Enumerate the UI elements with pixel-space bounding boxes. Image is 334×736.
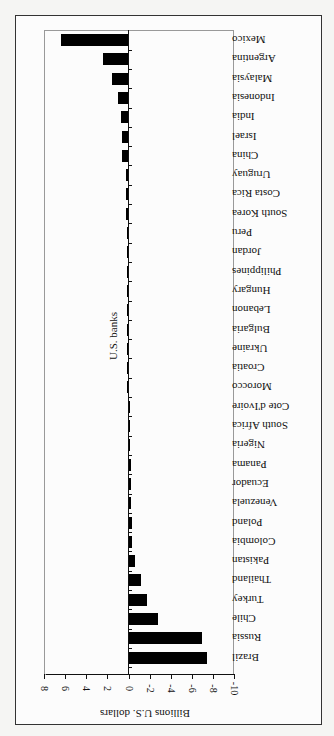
- x-tick-label: 8: [39, 679, 50, 699]
- zero-axis-line: [128, 30, 129, 675]
- category-label: Ecuador: [232, 477, 322, 491]
- x-axis-line: [46, 674, 234, 675]
- category-label: Malaysia: [232, 72, 322, 86]
- x-tick-label: -6: [186, 679, 197, 699]
- category-label: Jordan: [232, 245, 322, 259]
- category-label: Hungary: [232, 284, 322, 298]
- category-label: Poland: [232, 516, 322, 530]
- bar: [103, 53, 128, 65]
- bar: [129, 652, 207, 664]
- category-label: Turkey: [232, 593, 322, 607]
- x-tick-label: -4: [165, 679, 176, 699]
- x-tick-label: 2: [102, 679, 113, 699]
- category-label: Croatia: [232, 361, 322, 375]
- category-label: Philippines: [232, 265, 322, 279]
- x-axis-label: Billions U.S. dollars: [90, 708, 200, 720]
- category-label: Chile: [232, 612, 322, 626]
- category-label: India: [232, 110, 322, 124]
- category-label: Brazil: [232, 651, 322, 665]
- category-label: Pakistan: [232, 554, 322, 568]
- category-label: China: [232, 149, 322, 163]
- bar: [129, 574, 142, 586]
- category-label: Lebanon: [232, 303, 322, 317]
- category-label: Thailand: [232, 573, 322, 587]
- bar: [118, 92, 129, 104]
- category-label: Russia: [232, 631, 322, 645]
- category-label: Ukraine: [232, 342, 322, 356]
- category-label: Venezuela: [232, 496, 322, 510]
- category-label: Panama: [232, 458, 322, 472]
- x-tick-label: 4: [81, 679, 92, 699]
- x-tick-label: 0: [123, 679, 134, 699]
- x-tick-label: -10: [229, 679, 240, 699]
- category-label: Indonesia: [232, 91, 322, 105]
- bar: [129, 632, 203, 644]
- bar: [129, 555, 135, 567]
- category-label: Uruguay: [232, 168, 322, 182]
- bar: [129, 613, 159, 625]
- category-label: Colombia: [232, 535, 322, 549]
- category-label: Nigeria: [232, 438, 322, 452]
- category-label: South Africa: [232, 419, 322, 433]
- x-tick-label: -2: [144, 679, 155, 699]
- bar: [129, 594, 148, 606]
- x-tick-label: -8: [207, 679, 218, 699]
- x-tick-label: 6: [60, 679, 71, 699]
- category-label: Costa Rica: [232, 187, 322, 201]
- bar: [112, 73, 129, 85]
- category-label: Argentina: [232, 52, 322, 66]
- series-label: U.S. banks: [107, 301, 119, 371]
- category-label: Israel: [232, 130, 322, 144]
- bar: [61, 34, 129, 46]
- category-label: Bulgaria: [232, 323, 322, 337]
- category-label: Mexico: [232, 33, 322, 47]
- category-label: Morocco: [232, 380, 322, 394]
- category-label: Cote d'Ivoire: [232, 400, 322, 414]
- category-label: South Korea: [232, 207, 322, 221]
- category-label: Peru: [232, 226, 322, 240]
